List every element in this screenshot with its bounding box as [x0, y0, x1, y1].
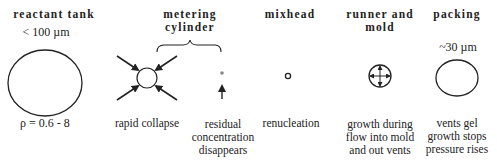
runner-heading-line1: runner and — [340, 8, 420, 21]
metering-heading-line1: metering — [160, 8, 220, 21]
metering-brace — [157, 40, 221, 52]
packing-caption-line3: pressure rises — [422, 142, 492, 156]
runner-caption-line3: and out vents — [340, 143, 420, 157]
residual-dot — [220, 71, 224, 75]
packing-heading: packing — [427, 8, 487, 21]
expansion-arrows-icon — [370, 66, 390, 86]
metering-heading-line2: cylinder — [160, 21, 220, 34]
runner-caption-line2: flow into mold — [340, 130, 420, 144]
residual-caption-line2: concentration — [188, 130, 258, 144]
collapsing-bubble — [137, 68, 157, 88]
mixhead-heading: mixhead — [260, 8, 320, 21]
packing-caption-line2: growth stops — [422, 129, 492, 143]
compression-arrows-icon — [117, 56, 177, 100]
reactant-tank-bubble — [8, 50, 82, 116]
packing-caption-line1: vents gel — [422, 116, 492, 130]
runner-heading-line2: mold — [340, 21, 420, 34]
density-note: ρ = 0.6 - 8 — [10, 116, 80, 130]
residual-caption-line3: disappears — [188, 143, 258, 157]
rapid-collapse-caption: rapid collapse — [112, 116, 182, 130]
residual-caption-line1: residual — [188, 117, 258, 131]
reactant-tank-size-note: < 100 µm — [18, 25, 74, 39]
packing-bubble — [436, 60, 478, 96]
runner-caption-line1: growth during — [340, 117, 420, 131]
packing-size-note: ~30 µm — [430, 40, 486, 54]
reactant-tank-heading: reactant tank — [12, 8, 96, 21]
mixhead-bubble — [285, 73, 290, 78]
renucleation-caption: renucleation — [258, 116, 324, 130]
